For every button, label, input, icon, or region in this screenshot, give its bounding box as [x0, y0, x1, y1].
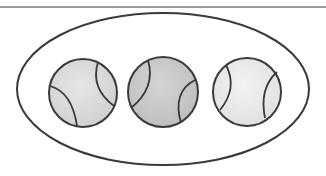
tennis-ball-icon — [49, 59, 117, 127]
tennis-ball-icon — [128, 57, 198, 127]
tennis-ball-icon — [213, 58, 281, 126]
set-of-tennis-balls-figure — [0, 0, 326, 176]
illustration: Three tennis balls enclosed in an oval (… — [0, 0, 326, 176]
